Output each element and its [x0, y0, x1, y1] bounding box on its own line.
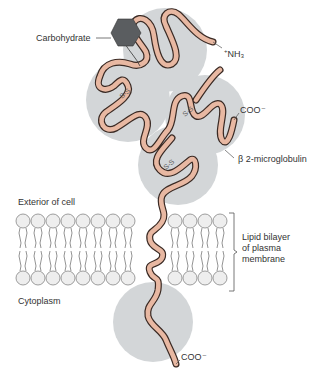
- mhc-class-i-diagram: S-S S-S S-S Carbohydrate +NH₃ COO⁻ β 2-m…: [0, 0, 321, 370]
- domain-alpha3: [138, 125, 218, 205]
- lipid-bilayer-line3: membrane: [242, 254, 290, 265]
- beta2-leader: [225, 150, 234, 158]
- coo-top-label: COO⁻: [240, 105, 266, 116]
- lipid-bilayer-label: Lipid bilayer of plasma membrane: [242, 232, 290, 265]
- exterior-of-cell-label: Exterior of cell: [18, 197, 75, 208]
- nh3-label: +NH₃: [224, 46, 244, 60]
- bilayer-bracket: [229, 213, 237, 291]
- lipid-bilayer: [16, 214, 227, 285]
- beta2-microglobulin-label: β 2-microglobulin: [238, 154, 307, 165]
- lipid-bilayer-line1: Lipid bilayer: [242, 232, 290, 243]
- diagram-canvas: S-S S-S S-S: [0, 0, 321, 370]
- nh3-text: NH₃: [228, 49, 245, 59]
- lipid-bilayer-line2: of plasma: [242, 243, 290, 254]
- carbohydrate-label: Carbohydrate: [36, 33, 91, 44]
- cytoplasm-label: Cytoplasm: [18, 296, 61, 307]
- coo-bottom-label: COO⁻: [181, 352, 207, 363]
